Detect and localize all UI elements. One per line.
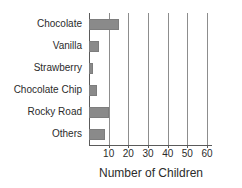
category-label: Chocolate Chip (14, 79, 82, 101)
gridline (207, 13, 208, 145)
gridline (168, 13, 169, 145)
bar (89, 63, 93, 74)
x-tick-mark (207, 145, 208, 148)
bar (89, 107, 109, 118)
bar (89, 85, 97, 96)
gridline (128, 13, 129, 145)
x-axis-tick-labels: 10 20 30 40 50 60 (0, 148, 242, 162)
bar-chart: Chocolate Vanilla Strawberry Chocolate C… (0, 0, 242, 188)
x-axis-title: Number of Children (60, 166, 242, 180)
bar (89, 19, 119, 30)
category-label: Chocolate (37, 13, 82, 35)
x-tick-mark (109, 145, 110, 148)
category-label: Rocky Road (28, 101, 82, 123)
category-label: Vanilla (53, 35, 82, 57)
gridline (109, 13, 110, 145)
category-label: Others (52, 123, 82, 145)
gridline (187, 13, 188, 145)
bar (89, 41, 99, 52)
category-axis-labels: Chocolate Vanilla Strawberry Chocolate C… (0, 13, 86, 145)
x-tick-mark (187, 145, 188, 148)
x-tick-mark (168, 145, 169, 148)
category-label: Strawberry (34, 57, 82, 79)
x-tick-mark (148, 145, 149, 148)
x-tick-mark (128, 145, 129, 148)
bar (89, 129, 105, 140)
plot-area (89, 13, 211, 145)
x-tick-label: 60 (195, 148, 219, 159)
x-axis-line (89, 145, 212, 146)
gridline (148, 13, 149, 145)
